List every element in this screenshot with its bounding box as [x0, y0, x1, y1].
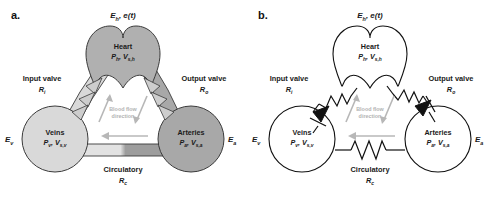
output-branch-lower-wire [429, 112, 435, 122]
input-valve-label: Input valve Ri [4, 74, 80, 95]
arteries-elastance-label: Ea [475, 135, 483, 146]
output-valve-label: Output valve Ro [164, 74, 244, 95]
panel-a-top-elastance: Eh, e(t) [0, 11, 246, 22]
input-valve-label: Input valve Ri [251, 74, 327, 95]
blood-flow-label: Blood flow direction [89, 106, 157, 120]
heart-label: Heart Ph, Vs,h [83, 43, 163, 63]
arteries-elastance-label: Ea [228, 135, 236, 146]
circulatory-resistor-icon [335, 141, 405, 159]
panel-b: b. [247, 0, 493, 199]
panel-b-top-elastance: Eh, e(t) [247, 11, 493, 22]
veins-label: Veins Pv, Vs,v [267, 129, 337, 149]
arteries-label: Arteries Pa, Vs,a [403, 129, 473, 149]
veins-label: Veins Pv, Vs,v [20, 129, 90, 149]
circulatory-label: Circulatory Rc [83, 165, 163, 186]
arteries-label: Arteries Pa, Vs,a [156, 129, 226, 149]
circulatory-label: Circulatory Rc [330, 165, 410, 186]
heart-label: Heart Ph, Vs,h [330, 43, 410, 63]
panel-a: a. [0, 0, 246, 199]
veins-elastance-label: Ev [5, 135, 13, 146]
veins-elastance-label: Ev [252, 135, 260, 146]
blood-flow-label: Blood flow direction [336, 106, 404, 120]
figure-container: a. [0, 0, 493, 199]
output-valve-label: Output valve Ro [411, 74, 491, 95]
